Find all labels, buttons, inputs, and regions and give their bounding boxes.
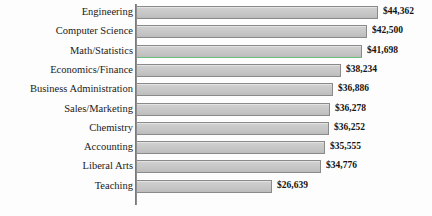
bar-row: Chemistry$36,252 bbox=[0, 122, 432, 135]
value-label: $35,555 bbox=[330, 140, 361, 153]
bar bbox=[137, 6, 378, 19]
category-label: Math/Statistics bbox=[0, 44, 133, 57]
bar-row: Computer Science$42,500 bbox=[0, 25, 432, 38]
category-label: Business Administration bbox=[0, 82, 133, 95]
bar-row: Accounting$35,555 bbox=[0, 141, 432, 154]
bar-highlight bbox=[137, 65, 340, 66]
bar bbox=[137, 103, 330, 116]
category-label: Computer Science bbox=[0, 24, 133, 37]
value-label: $36,886 bbox=[338, 82, 369, 95]
bar bbox=[137, 160, 321, 173]
value-label: $34,776 bbox=[326, 159, 357, 172]
category-label: Teaching bbox=[0, 179, 133, 192]
bar bbox=[137, 83, 333, 96]
bar-highlight bbox=[137, 104, 329, 105]
bar-highlight bbox=[137, 161, 320, 162]
category-label: Sales/Marketing bbox=[0, 102, 133, 115]
category-label: Accounting bbox=[0, 140, 133, 153]
bar-row: Economics/Finance$38,234 bbox=[0, 64, 432, 77]
bar bbox=[137, 141, 325, 154]
bar-highlight bbox=[137, 46, 361, 47]
bar-highlight bbox=[137, 181, 271, 182]
bar-row: Business Administration$36,886 bbox=[0, 83, 432, 96]
bar bbox=[137, 180, 272, 193]
bar-highlight bbox=[137, 123, 328, 124]
bar bbox=[137, 25, 367, 38]
bar-row: Engineering$44,362 bbox=[0, 6, 432, 19]
bar bbox=[137, 64, 341, 77]
salary-bar-chart: Engineering$44,362Computer Science$42,50… bbox=[0, 0, 432, 216]
bar-row: Liberal Arts$34,776 bbox=[0, 160, 432, 173]
category-label: Economics/Finance bbox=[0, 63, 133, 76]
category-label: Liberal Arts bbox=[0, 159, 133, 172]
category-label: Engineering bbox=[0, 5, 133, 18]
plot-area: Engineering$44,362Computer Science$42,50… bbox=[0, 0, 432, 216]
value-label: $41,698 bbox=[367, 44, 398, 57]
bar-highlight bbox=[137, 7, 377, 8]
bar-highlight bbox=[137, 84, 332, 85]
value-label: $36,252 bbox=[334, 121, 365, 134]
bar bbox=[137, 122, 329, 135]
bar-highlight bbox=[137, 26, 366, 27]
value-label: $36,278 bbox=[335, 102, 366, 115]
value-label: $38,234 bbox=[346, 63, 377, 76]
bar-row: Sales/Marketing$36,278 bbox=[0, 103, 432, 116]
bar-highlight bbox=[137, 142, 324, 143]
bar-row: Teaching$26,639 bbox=[0, 180, 432, 193]
green-scan-line-artifact bbox=[137, 57, 362, 58]
value-label: $44,362 bbox=[383, 5, 414, 18]
value-label: $42,500 bbox=[372, 24, 403, 37]
value-label: $26,639 bbox=[277, 179, 308, 192]
category-label: Chemistry bbox=[0, 121, 133, 134]
